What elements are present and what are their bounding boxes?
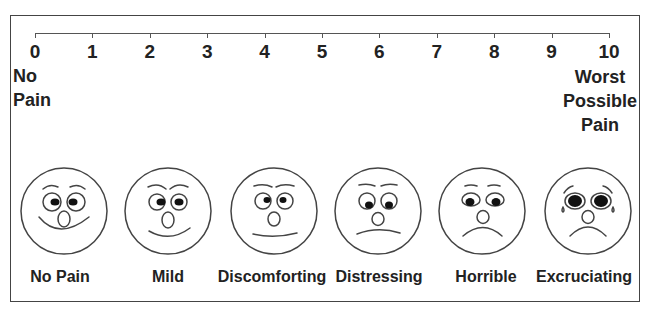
face-discomforting-icon	[231, 168, 317, 254]
face-horrible-icon	[439, 168, 525, 254]
face-mild-icon	[125, 168, 211, 254]
face-distressing-icon	[335, 168, 421, 254]
face-label-excruciating: Excruciating	[519, 268, 649, 286]
face-excruciating-icon	[545, 168, 631, 254]
face-no-pain-icon	[21, 168, 107, 254]
faces-row	[0, 0, 653, 312]
